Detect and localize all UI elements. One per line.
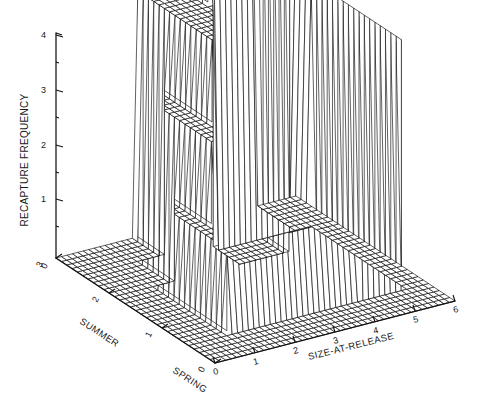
recapture-frequency-surface-plot: 4 3 2 1 0 RECAPTURE FREQUENCY 3 2 1 0 SU…	[0, 0, 478, 408]
z-tick-label-1: 1	[41, 194, 46, 204]
z-tick-label-3: 3	[41, 85, 46, 95]
z-tick-label-4: 4	[41, 30, 46, 40]
z-tick-label-2: 2	[41, 140, 46, 150]
z-axis-title: RECAPTURE FREQUENCY	[19, 94, 30, 227]
